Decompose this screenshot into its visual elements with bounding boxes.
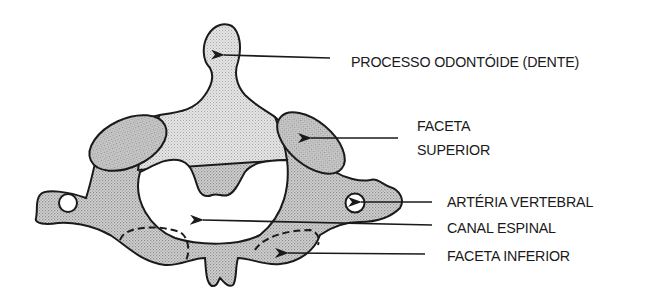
- label-superior-facet: FACETA SUPERIOR: [417, 114, 490, 162]
- leader-inferior-facet: [288, 253, 425, 254]
- label-superior-facet-line2: SUPERIOR: [417, 138, 490, 162]
- label-superior-facet-line1: FACETA: [417, 114, 490, 138]
- transverse-foramen-right: [346, 194, 365, 213]
- label-dens: PROCESSO ODONTÓIDE (DENTE): [351, 50, 579, 74]
- label-spinal-canal: CANAL ESPINAL: [447, 216, 556, 240]
- transverse-foramen-left: [59, 194, 77, 212]
- label-vertebral-artery: ARTÉRIA VERTEBRAL: [447, 190, 593, 214]
- label-inferior-facet: FACETA INFERIOR: [447, 244, 570, 268]
